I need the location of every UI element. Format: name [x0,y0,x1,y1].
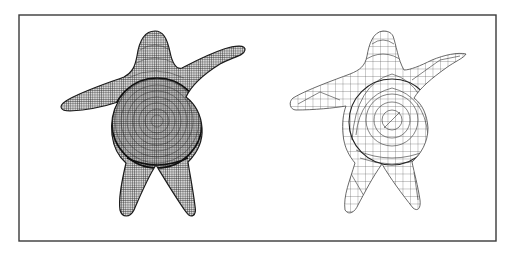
figure-canvas [0,0,515,254]
dense-mesh-figure [55,25,255,225]
coarse-mesh-figure [285,25,475,225]
